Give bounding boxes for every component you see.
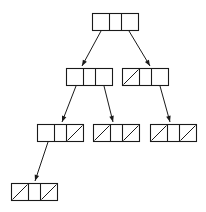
- tree-edge-root-to-level2-left: [82, 31, 101, 66]
- node-cell-hit[interactable]: [96, 69, 113, 86]
- edge-arrowhead: [35, 175, 39, 181]
- node-cell-2[interactable]: [111, 125, 123, 142]
- nodes-layer: [12, 14, 197, 201]
- edge-arrowhead: [62, 116, 66, 122]
- node-cell-2[interactable]: [168, 125, 180, 142]
- node-cell-3[interactable]: [180, 125, 197, 142]
- edge-arrowhead: [82, 60, 87, 66]
- node-cell-hit[interactable]: [111, 125, 123, 142]
- node-cell-3[interactable]: [96, 69, 113, 86]
- edge-arrowhead: [166, 116, 170, 122]
- tree-node-level4-leaf-node[interactable]: [12, 184, 58, 201]
- node-cell-1[interactable]: [93, 14, 110, 31]
- node-cell-3[interactable]: [41, 184, 58, 201]
- tree-node-level3-right-node[interactable]: [151, 125, 197, 142]
- node-cell-1[interactable]: [12, 184, 29, 201]
- node-cell-3[interactable]: [123, 125, 140, 142]
- tree-node-level3-middle-node[interactable]: [94, 125, 140, 142]
- edges-layer: [35, 31, 171, 181]
- tree-edge-root-to-level2-right: [129, 31, 150, 66]
- node-cell-2[interactable]: [84, 69, 96, 86]
- edge-arrowhead: [109, 116, 113, 122]
- node-cell-hit[interactable]: [122, 14, 139, 31]
- tree-node-level2-right-node[interactable]: [123, 69, 169, 86]
- node-cell-hit[interactable]: [140, 69, 152, 86]
- node-cell-1[interactable]: [151, 125, 168, 142]
- edge-line: [35, 142, 48, 181]
- node-cell-1[interactable]: [123, 69, 140, 86]
- node-cell-2[interactable]: [29, 184, 41, 201]
- node-cell-2[interactable]: [55, 125, 67, 142]
- node-cell-hit[interactable]: [168, 125, 180, 142]
- node-cell-3[interactable]: [67, 125, 84, 142]
- node-cell-3[interactable]: [152, 69, 169, 86]
- node-cell-1[interactable]: [67, 69, 84, 86]
- node-cell-hit[interactable]: [55, 125, 67, 142]
- node-cell-hit[interactable]: [110, 14, 122, 31]
- node-cell-hit[interactable]: [152, 69, 169, 86]
- node-cell-hit[interactable]: [93, 14, 110, 31]
- node-cell-hit[interactable]: [29, 184, 41, 201]
- node-cell-hit[interactable]: [67, 69, 84, 86]
- tree-node-level3-left-node[interactable]: [38, 125, 84, 142]
- node-cell-hit[interactable]: [84, 69, 96, 86]
- node-cell-1[interactable]: [38, 125, 55, 142]
- tree-edge-level3left-to-level4leaf: [35, 142, 48, 181]
- tree-node-level2-left-node[interactable]: [67, 69, 113, 86]
- node-cell-2[interactable]: [140, 69, 152, 86]
- node-cell-hit[interactable]: [38, 125, 55, 142]
- node-cell-1[interactable]: [94, 125, 111, 142]
- tree-edge-level2right-to-level3right: [160, 86, 171, 122]
- node-cell-2[interactable]: [110, 14, 122, 31]
- edge-line: [129, 31, 150, 66]
- node-cell-3[interactable]: [122, 14, 139, 31]
- edge-arrowhead: [145, 60, 150, 66]
- tree-edge-level2left-to-level3left: [62, 86, 76, 122]
- tree-diagram: [0, 0, 206, 212]
- tree-edge-level2left-to-level3middle: [104, 86, 114, 122]
- tree-diagram-canvas: [0, 0, 206, 212]
- tree-node-root-node[interactable]: [93, 14, 139, 31]
